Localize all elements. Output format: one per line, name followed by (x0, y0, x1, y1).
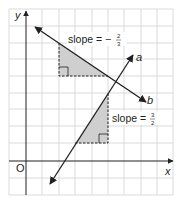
svg-text:slope = −: slope = − (68, 33, 111, 45)
slope-label-a: slope = 3 2 (111, 111, 159, 126)
slope-text: slope = (112, 112, 146, 124)
x-axis-label: x (164, 165, 171, 177)
coordinate-plane-diagram: y x O a b slope = − 2 3 slope = 3 2 (0, 0, 185, 205)
origin-label: O (16, 162, 25, 174)
line-b-label: b (147, 94, 153, 106)
y-axis-label: y (14, 9, 22, 21)
slope-sign: − (105, 33, 111, 45)
svg-text:slope =: slope = (112, 112, 146, 124)
slope-text: slope = (68, 33, 105, 45)
slope-label-b: slope = − 2 3 (67, 32, 127, 47)
line-a-label: a (136, 51, 142, 63)
